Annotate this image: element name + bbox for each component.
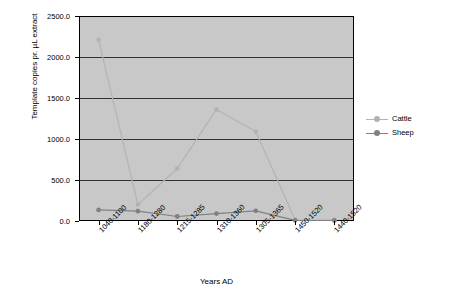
- series-line: [99, 40, 335, 220]
- data-point: [175, 214, 180, 219]
- legend-marker-icon: [366, 114, 388, 124]
- legend-marker-icon: [366, 128, 388, 138]
- data-point: [214, 107, 219, 112]
- series-cattle: [96, 37, 337, 222]
- legend-label: Cattle: [392, 114, 412, 124]
- series-layer: [0, 0, 476, 295]
- data-point: [214, 211, 219, 216]
- legend: CattleSheep: [366, 112, 444, 140]
- y-tick-mark: [75, 221, 79, 222]
- y-tick-mark: [75, 180, 79, 181]
- legend-label: Sheep: [392, 128, 414, 138]
- data-point: [253, 129, 258, 134]
- data-point: [96, 208, 101, 213]
- data-point: [253, 208, 258, 213]
- data-point: [136, 202, 141, 207]
- y-tick-mark: [75, 16, 79, 17]
- y-tick-mark: [75, 98, 79, 99]
- data-point: [175, 166, 180, 171]
- chart-container: 0.0500.01000.01500.02000.02500.0 Templat…: [0, 0, 476, 295]
- y-tick-mark: [75, 57, 79, 58]
- data-point: [136, 209, 141, 214]
- legend-item-cattle[interactable]: Cattle: [366, 112, 444, 126]
- y-tick-mark: [75, 139, 79, 140]
- legend-item-sheep[interactable]: Sheep: [366, 126, 444, 140]
- x-axis-label: Years AD: [79, 277, 354, 286]
- data-point: [96, 37, 101, 42]
